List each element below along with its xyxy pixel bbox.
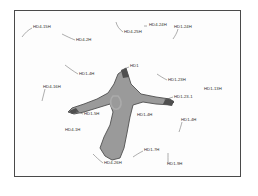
leader-line xyxy=(65,65,78,74)
annotation-label: HD1-23H xyxy=(168,78,186,82)
annotation-label: HD1-9H xyxy=(167,162,182,166)
annotation-label: HD4-15H xyxy=(33,25,51,29)
annotation-label: HD4-16H xyxy=(43,85,61,89)
leader-line xyxy=(116,22,123,32)
annotation-label: HD1-5H xyxy=(84,112,99,116)
annotation-label: HD1-23-1 xyxy=(174,95,193,99)
annotation-label: HD4-2H xyxy=(76,38,91,42)
annotation-label: HD1-13H xyxy=(204,87,222,91)
annotation-label: HD4-1H xyxy=(65,128,80,132)
annotation-label: HD1-4H xyxy=(181,118,196,122)
annotation-label: HD4-24H xyxy=(149,23,167,27)
annotation-label: HD1-7H xyxy=(144,148,159,152)
leader-line xyxy=(179,122,182,132)
annotation-label: HD1-24H xyxy=(174,25,192,29)
figure-root: HD4-15HHD4-2HHD4-25HHD4-24HHD1-24HHD1HD1… xyxy=(0,0,258,196)
leader-line xyxy=(62,34,75,40)
annotation-label: HD4-25H xyxy=(124,30,142,34)
annotation-label: HD1 xyxy=(130,64,139,68)
leader-line xyxy=(157,74,167,80)
annotation-label: HD1-4H xyxy=(79,72,94,76)
annotation-label: HD4-26H xyxy=(104,161,122,165)
leader-line xyxy=(22,28,32,37)
annotation-label: HD1-4H xyxy=(137,113,152,117)
leader-line xyxy=(42,89,45,101)
leader-line xyxy=(93,154,103,163)
leader-line xyxy=(173,29,178,39)
leader-line xyxy=(133,151,143,157)
